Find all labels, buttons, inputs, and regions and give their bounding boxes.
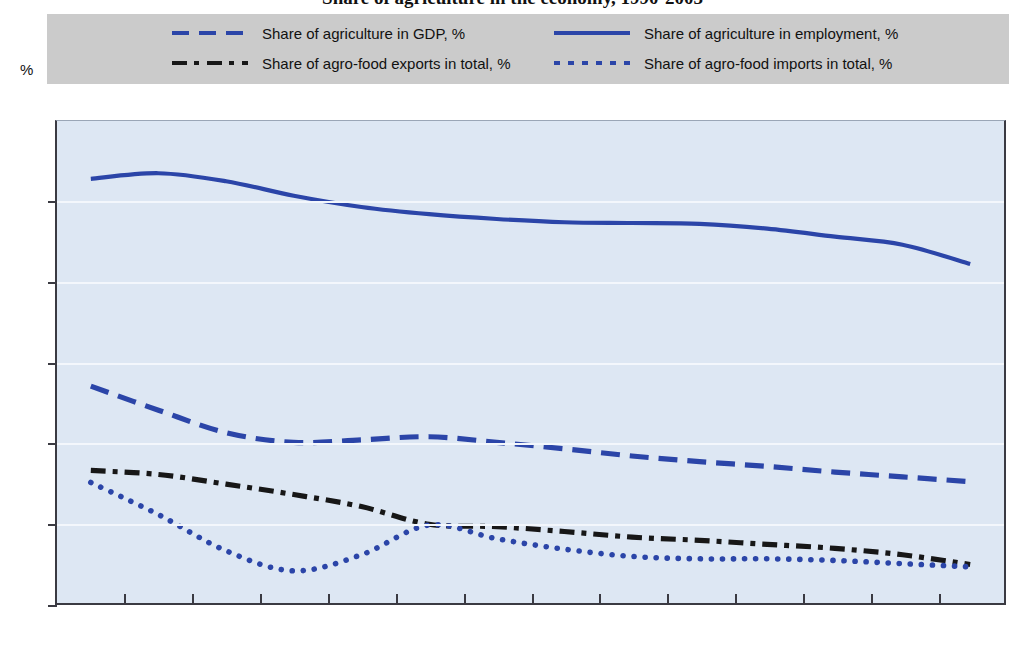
x-axis-tick [939,594,941,605]
legend-label-employment: Share of agriculture in employment, % [644,25,898,42]
x-axis-tick [735,594,737,605]
legend-label-exports: Share of agro-food exports in total, % [262,55,510,72]
x-axis-tick [260,594,262,605]
y-axis-unit-label: % [20,61,33,78]
y-axis-tick [48,282,57,284]
legend-swatch-dashed-icon [172,26,248,40]
legend-swatch-dashdot-icon [172,56,248,70]
legend-label-gdp: Share of agriculture in GDP, % [262,25,465,42]
gridline [57,282,1004,284]
gridline [57,524,1004,526]
y-axis-tick [48,443,57,445]
y-axis-tick [48,605,57,607]
x-axis-tick [464,594,466,605]
series-line-dashdot [91,470,970,564]
plot-inner [57,121,1004,603]
x-axis-tick [803,594,805,605]
chart-plot-area: 0102030405060199019911992199319941995199… [55,120,1006,605]
x-axis-tick [871,594,873,605]
gridline [57,201,1004,203]
legend-swatch-dotted-icon [554,56,630,70]
page-title: Share of agriculture in the economy, 199… [0,0,1025,9]
series-line-solid [91,173,970,264]
legend-item-gdp: Share of agriculture in GDP, % [172,22,465,44]
y-axis-tick [48,201,57,203]
x-axis-tick [532,594,534,605]
x-axis-tick [667,594,669,605]
gridline [57,443,1004,445]
legend-swatch-solid-icon [554,26,630,40]
y-axis-tick [48,363,57,365]
legend-label-imports: Share of agro-food imports in total, % [644,55,892,72]
x-axis-tick [124,594,126,605]
chart-title-strip: Share of agriculture in the economy, 199… [0,0,1025,12]
x-axis-tick [599,594,601,605]
legend-item-exports: Share of agro-food exports in total, % [172,52,510,74]
x-axis-tick [192,594,194,605]
x-axis-tick [328,594,330,605]
legend-item-imports: Share of agro-food imports in total, % [554,52,892,74]
y-axis-tick [48,524,57,526]
series-line-dashed [91,386,970,482]
chart-legend: Share of agriculture in GDP, % Share of … [47,14,1009,84]
legend-item-employment: Share of agriculture in employment, % [554,22,898,44]
gridline [57,363,1004,365]
x-axis-tick [396,594,398,605]
